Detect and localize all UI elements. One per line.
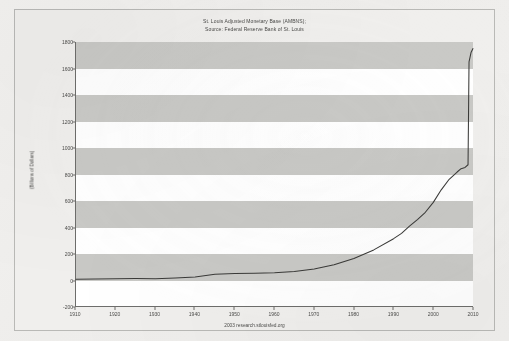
y-axis-tick-label: 400 [47, 225, 73, 231]
y-axis-tick-mark [72, 42, 75, 43]
y-axis-tick-label: 1000 [47, 145, 73, 151]
y-axis-tick-mark [72, 227, 75, 228]
x-axis-tick-label: 1990 [388, 311, 399, 317]
series-line-chart [76, 42, 473, 306]
x-axis-tick-mark [75, 307, 76, 310]
y-axis-tick-mark [72, 174, 75, 175]
x-axis-tick-mark [433, 307, 434, 310]
x-axis-tick-mark [274, 307, 275, 310]
x-axis-tick-mark [234, 307, 235, 310]
y-axis-title: (Billions of Dollars) [30, 151, 35, 189]
x-axis-tick-label: 1970 [308, 311, 319, 317]
screenshot-root: St. Louis Adjusted Monetary Base (AMBNS)… [0, 0, 509, 341]
x-axis-tick-label: 1930 [149, 311, 160, 317]
x-axis-tick-label: 1950 [229, 311, 240, 317]
x-axis-tick-label: 2000 [428, 311, 439, 317]
x-axis-tick-mark [313, 307, 314, 310]
y-axis-tick-mark [72, 68, 75, 69]
footer-caption: 2003 research.stlouisfed.org [15, 323, 494, 328]
y-axis-tick-mark [72, 254, 75, 255]
x-axis-tick-mark [194, 307, 195, 310]
x-axis-tick-label: 1920 [109, 311, 120, 317]
chart-title-line-2: Source: Federal Reserve Bank of St. Loui… [15, 26, 494, 34]
x-axis-tick-label: 2010 [467, 311, 478, 317]
x-axis-tick-label: 1980 [348, 311, 359, 317]
y-axis-tick-label: -200 [47, 304, 73, 310]
y-axis-tick-label: 800 [47, 172, 73, 178]
x-axis-tick-mark [473, 307, 474, 310]
plot-area [75, 42, 473, 307]
y-axis-tick-mark [72, 148, 75, 149]
y-axis-tick-label: 1200 [47, 119, 73, 125]
y-axis-tick-label: 600 [47, 198, 73, 204]
y-axis-tick-label: 1800 [47, 39, 73, 45]
x-axis-tick-label: 1940 [189, 311, 200, 317]
x-axis-tick-mark [353, 307, 354, 310]
monetary-base-line [76, 49, 473, 280]
y-axis-tick-mark [72, 280, 75, 281]
chart-title-line-1: St. Louis Adjusted Monetary Base (AMBNS)… [15, 18, 494, 26]
y-axis-tick-mark [72, 121, 75, 122]
y-axis-tick-label: 1600 [47, 66, 73, 72]
y-axis-labels: 180016001400120010008006004002000-200 [43, 42, 73, 307]
y-axis-tick-label: 1400 [47, 92, 73, 98]
y-axis-tick-label: 0 [47, 278, 73, 284]
y-axis-tick-label: 200 [47, 251, 73, 257]
chart-title-block: St. Louis Adjusted Monetary Base (AMBNS)… [15, 18, 494, 33]
figure-frame: St. Louis Adjusted Monetary Base (AMBNS)… [14, 9, 495, 331]
x-axis-tick-mark [154, 307, 155, 310]
x-axis-tick-mark [114, 307, 115, 310]
x-axis-labels: 1910192019301940195019601970198019902000… [75, 307, 473, 323]
x-axis-tick-label: 1910 [69, 311, 80, 317]
x-axis-tick-mark [393, 307, 394, 310]
y-axis-tick-mark [72, 95, 75, 96]
x-axis-tick-label: 1960 [268, 311, 279, 317]
y-axis-tick-mark [72, 201, 75, 202]
